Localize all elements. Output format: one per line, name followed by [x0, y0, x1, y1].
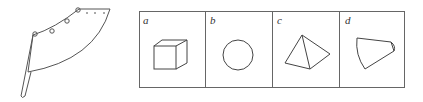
pyramid-shape — [285, 35, 330, 69]
panel-label-d: d — [345, 14, 351, 26]
panel-label-b: b — [210, 14, 216, 26]
cube-shape — [154, 40, 187, 69]
horn-drawing — [0, 0, 135, 102]
panel-label-c: c — [277, 14, 282, 26]
truncated-cone-shape — [357, 38, 395, 69]
circle-shape — [223, 40, 253, 70]
panel-label-a: a — [143, 14, 149, 26]
